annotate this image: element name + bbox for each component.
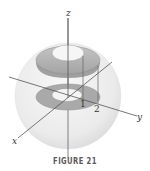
y-axis-label: y — [136, 112, 143, 122]
sphere-annulus-diagram: z y x 1 2 — [0, 0, 150, 171]
tick-label-1: 1 — [80, 99, 86, 109]
x-axis-label: x — [12, 136, 17, 146]
figure-caption: FIGURE 21 — [11, 157, 139, 166]
tick-label-2: 2 — [94, 104, 100, 114]
z-axis-label: z — [65, 8, 71, 18]
